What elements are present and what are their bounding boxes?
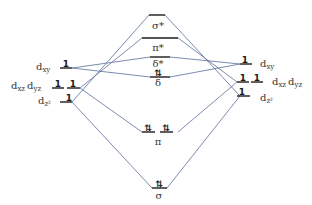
- mo-label-pi-star: π*: [152, 42, 164, 53]
- connector-left-dxzdyz-pi: [80, 88, 142, 132]
- molecular-orbitals: σ* π* δ* ⇅ δ ⇅ ⇅ π ⇅ σ: [142, 15, 178, 201]
- connector-right-dz2-sigma: [167, 96, 240, 188]
- mo-label-sigma-star: σ*: [152, 20, 164, 31]
- right-dz2-label: dz²: [260, 92, 273, 105]
- connector-right-dxzdyz-pi: [178, 82, 237, 132]
- mo-label-pi: π: [155, 136, 162, 147]
- connector-right-dz2-sigma-star: [165, 15, 240, 96]
- left-atom-orbitals: dxy 1 dxzdyz 1 1 dz² 1: [11, 59, 80, 108]
- connector-lines: [72, 15, 240, 188]
- left-dxy-label: dxy: [36, 61, 50, 74]
- right-atom-orbitals: 1 dxy 1 1 dxzdyz 1 dz²: [237, 55, 302, 105]
- connector-left-dxzdyz-pi-star: [80, 38, 142, 88]
- connector-right-dxzdyz-pi-star: [178, 38, 237, 82]
- mo-label-delta: δ: [155, 77, 161, 88]
- connector-left-dz2-sigma: [72, 102, 152, 188]
- connector-left-dxy-delta: [72, 68, 150, 77]
- right-dxz-dyz-label: dxzdyz: [272, 76, 302, 89]
- mo-label-sigma: σ: [156, 190, 163, 201]
- left-dxz-dyz-label: dxzdyz: [11, 80, 41, 93]
- right-dxy-label: dxy: [260, 58, 274, 71]
- mo-diagram: σ* π* δ* ⇅ δ ⇅ ⇅ π ⇅ σ dxy 1 dxzdyz 1 1 …: [0, 0, 312, 205]
- left-dz2-label: dz²: [38, 95, 51, 108]
- connector-right-dxy-delta: [170, 64, 240, 77]
